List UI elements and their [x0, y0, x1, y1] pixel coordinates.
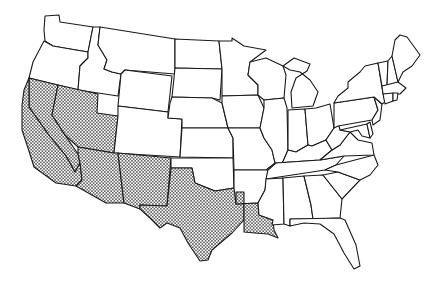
- state-michigan: [283, 58, 318, 108]
- state-rhode-island: [393, 93, 398, 101]
- state-new-mexico: [118, 153, 171, 209]
- state-montana: [98, 27, 175, 74]
- state-florida: [290, 218, 360, 269]
- us-map-svg: [0, 0, 442, 281]
- state-connecticut: [383, 93, 393, 104]
- state-arizona: [76, 147, 124, 203]
- state-iowa: [222, 95, 264, 128]
- state-south-dakota: [172, 68, 222, 100]
- state-maine: [392, 35, 420, 82]
- state-north-dakota: [175, 39, 222, 69]
- state-wyoming: [118, 70, 172, 112]
- state-new-york: [334, 63, 385, 104]
- us-map: Contiguous United States: [0, 0, 442, 281]
- state-kansas: [180, 128, 233, 158]
